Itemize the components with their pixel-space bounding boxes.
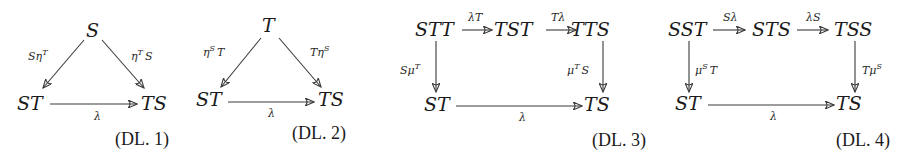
diagram-dl3: STT TST TTS ST TS λT Tλ SμT μTS λ (DL. 3… bbox=[400, 11, 646, 151]
label-right: μTS bbox=[567, 62, 590, 77]
node-left: ST bbox=[17, 92, 44, 114]
equation-tag: (DL. 1) bbox=[115, 129, 169, 150]
node-top-right: TSS bbox=[834, 18, 872, 40]
label-bottom: λ bbox=[518, 111, 526, 124]
equation-tag: (DL. 3) bbox=[592, 130, 646, 151]
label-top-2: Tλ bbox=[551, 11, 565, 24]
label-right: ηTS bbox=[131, 48, 153, 63]
label-bottom: λ bbox=[267, 107, 275, 120]
node-top: S bbox=[86, 19, 99, 41]
node-bottom-left: ST bbox=[675, 92, 702, 114]
node-top-left: STT bbox=[415, 18, 455, 40]
label-top-2: λS bbox=[805, 11, 821, 24]
label-right: TηS bbox=[310, 44, 330, 59]
label-left: μST bbox=[695, 62, 719, 77]
arrow-left bbox=[221, 38, 261, 87]
equation-tag: (DL. 4) bbox=[836, 130, 890, 151]
label-top-1: Sλ bbox=[723, 11, 738, 24]
diagram-canvas: S ST TS SηT ηTS λ (DL. 1) T ST TS ηST Tη… bbox=[0, 0, 911, 159]
diagram-dl2: T ST TS ηST TηS λ (DL. 2) bbox=[196, 14, 346, 144]
node-bottom-right: TS bbox=[584, 93, 610, 115]
label-left: SμT bbox=[400, 62, 421, 77]
diagram-dl1: S ST TS SηT ηTS λ (DL. 1) bbox=[17, 19, 169, 150]
label-top-1: λT bbox=[467, 11, 484, 24]
label-bottom: λ bbox=[769, 110, 777, 123]
node-right: TS bbox=[141, 92, 167, 114]
node-right: TS bbox=[318, 88, 344, 110]
node-left: ST bbox=[196, 88, 223, 110]
node-top-middle: STS bbox=[752, 18, 791, 40]
arrow-left bbox=[43, 40, 84, 88]
diagram-dl4: SST STS TSS ST TS Sλ λS μST TμS λ (DL. 4… bbox=[668, 11, 890, 151]
node-bottom-left: ST bbox=[424, 93, 451, 115]
node-top: T bbox=[262, 14, 276, 36]
node-top-middle: TST bbox=[494, 18, 534, 40]
node-top-right: TTS bbox=[571, 18, 610, 40]
label-right: TμS bbox=[862, 62, 883, 77]
label-left: ηST bbox=[203, 44, 226, 59]
equation-tag: (DL. 2) bbox=[292, 123, 346, 144]
label-bottom: λ bbox=[93, 110, 101, 123]
node-bottom-right: TS bbox=[836, 92, 862, 114]
node-top-left: SST bbox=[668, 18, 708, 40]
label-left: SηT bbox=[28, 48, 48, 63]
